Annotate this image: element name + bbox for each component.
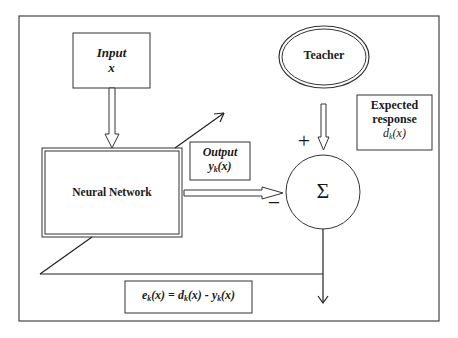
expected-arg: (x) bbox=[393, 126, 406, 140]
minus-sign: − bbox=[264, 190, 284, 215]
input-label-line2: x bbox=[73, 61, 150, 76]
sigma-symbol: Σ bbox=[303, 178, 343, 203]
input-label-line1: Input bbox=[73, 46, 150, 61]
output-label: Output yk(x) bbox=[190, 146, 250, 175]
expected-label-line1: Expected bbox=[357, 99, 432, 113]
neural-network-label: Neural Network bbox=[45, 186, 179, 199]
error-e-tail: (x) = bbox=[151, 288, 178, 302]
input-label: Input x bbox=[73, 46, 150, 76]
error-y-tail: (x) bbox=[221, 288, 235, 302]
output-arg: (x) bbox=[218, 159, 232, 173]
teacher-label: Teacher bbox=[279, 49, 369, 63]
error-equation: ek(x) = dk(x) - yk(x) bbox=[125, 289, 252, 304]
feedback-diagonal-line bbox=[40, 237, 92, 274]
output-label-line1: Output bbox=[190, 146, 250, 160]
expected-label-line3: dk(x) bbox=[357, 127, 432, 142]
error-d-tail: (x) - bbox=[188, 288, 212, 302]
expected-label-line2: response bbox=[357, 113, 432, 127]
teacher-to-sum-arrow bbox=[318, 104, 329, 150]
output-label-line2: yk(x) bbox=[190, 160, 250, 175]
plus-sign: + bbox=[294, 128, 314, 153]
expected-response-label: Expected response dk(x) bbox=[357, 99, 432, 141]
input-to-network-arrow bbox=[105, 88, 119, 148]
